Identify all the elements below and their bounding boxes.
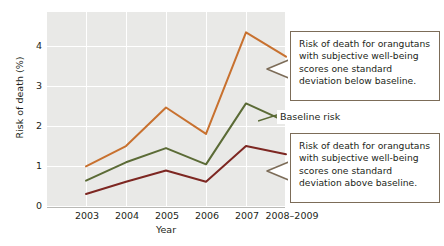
x-axis-title: Year xyxy=(47,224,285,235)
x-tick-label-2008-2009: 2008–2009 xyxy=(252,210,332,221)
annotation-callout-below-baseline: Risk of death for orangutans with subjec… xyxy=(290,31,440,101)
x-tick-label-2005: 2005 xyxy=(146,210,188,221)
x-tick-label-2004: 2004 xyxy=(106,210,148,221)
series-line-below-baseline xyxy=(86,32,286,166)
y-axis-title: Risk of death (%) xyxy=(14,33,25,163)
annotation-callout-above-baseline: Risk of death for orangutans with subjec… xyxy=(290,133,440,203)
x-tick-label-2006: 2006 xyxy=(186,210,228,221)
callout-tail-below-icon xyxy=(265,58,291,80)
x-axis-line xyxy=(47,207,285,208)
y-tick-label-0: 0 xyxy=(14,201,42,211)
callout-tail-above-icon xyxy=(265,160,291,182)
chart-figure: 0 1 2 3 4 Risk of death (%) 2003 2004 20… xyxy=(0,0,444,246)
y-tick-label-1: 1 xyxy=(14,161,42,171)
series-line-baseline xyxy=(86,103,286,180)
series-container xyxy=(47,12,285,207)
series-line-above-baseline xyxy=(86,146,286,194)
x-tick-label-2003: 2003 xyxy=(66,210,108,221)
baseline-risk-label: Baseline risk xyxy=(277,110,343,124)
